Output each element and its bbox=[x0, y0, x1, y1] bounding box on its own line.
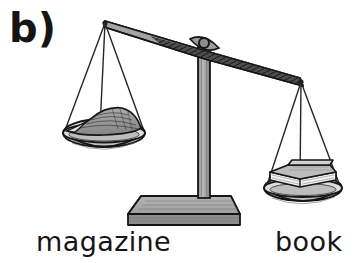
panel-letter: b) bbox=[9, 8, 56, 48]
column-shaft bbox=[198, 46, 210, 198]
pivot-icon bbox=[199, 38, 209, 48]
scale-base bbox=[128, 196, 240, 225]
right-item-label: book bbox=[275, 228, 342, 255]
figure-panel-b: b) magazine book bbox=[0, 0, 356, 263]
book-cover-back bbox=[288, 160, 333, 165]
left-item-label: magazine bbox=[36, 228, 171, 255]
base-front-face bbox=[128, 214, 240, 225]
beam-shadow-hatch bbox=[150, 36, 303, 86]
scale-column bbox=[198, 46, 210, 198]
